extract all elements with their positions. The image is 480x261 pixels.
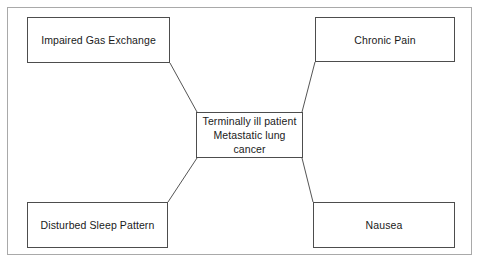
node-nausea-label: Nausea xyxy=(362,218,407,232)
node-chronic-pain-label: Chronic Pain xyxy=(350,33,419,47)
node-disturbed-sleep-pattern: Disturbed Sleep Pattern xyxy=(27,202,168,248)
diagram-canvas: Impaired Gas Exchange Chronic Pain Termi… xyxy=(0,0,480,261)
node-chronic-pain: Chronic Pain xyxy=(315,17,455,62)
node-impaired-gas-exchange-label: Impaired Gas Exchange xyxy=(37,33,160,47)
node-impaired-gas-exchange: Impaired Gas Exchange xyxy=(27,17,170,63)
node-nausea: Nausea xyxy=(313,202,455,248)
node-central-diagnosis: Terminally ill patient Metastatic lung c… xyxy=(196,112,303,158)
node-disturbed-sleep-pattern-label: Disturbed Sleep Pattern xyxy=(37,218,159,232)
node-central-diagnosis-label: Terminally ill patient Metastatic lung c… xyxy=(197,114,302,156)
